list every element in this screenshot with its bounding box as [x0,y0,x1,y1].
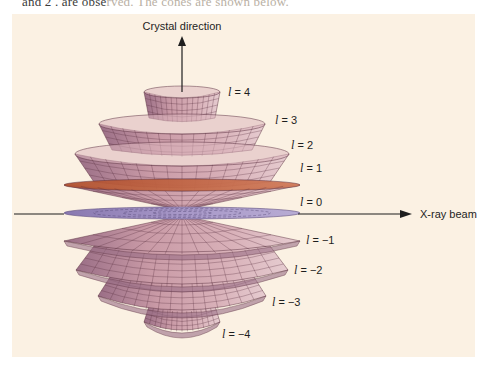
order-label: l = 1 [300,161,322,175]
arrow-up-icon [178,36,186,46]
order-label: l = 0 [300,195,322,209]
cone-l1 [64,179,300,212]
order-label: l = 4 [228,85,250,99]
cones-layer [64,86,300,338]
order-label: l = −1 [306,233,334,247]
order-label: l = −4 [222,327,250,341]
cone-l0 [64,207,300,219]
crystal-direction-axis: Crystal direction [143,20,222,92]
arrow-right-icon [400,210,412,218]
x-ray-beam-label: X-ray beam [420,208,477,220]
order-label: l = −2 [294,263,322,277]
order-label: l = −3 [272,295,300,309]
order-label: l = 2 [291,138,313,152]
order-label: l = 3 [275,113,297,127]
laue-cones-figure: Crystal direction X-ray beam l = 4l = 3l… [0,0,495,368]
crystal-direction-label: Crystal direction [143,20,222,32]
